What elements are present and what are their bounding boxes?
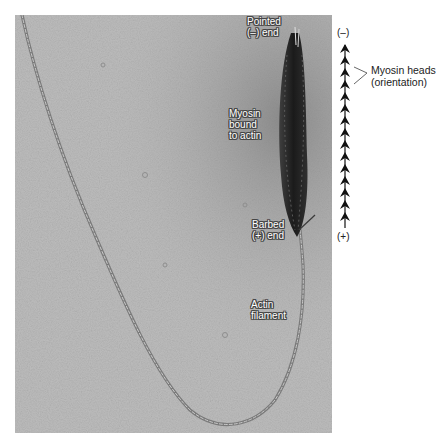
callout-bracket — [354, 67, 367, 84]
label-actin-filament: Actin filament — [251, 299, 286, 321]
polarity-axis: (–) Myosin heads (orientation) (+) — [332, 0, 442, 442]
label-pointed-end: Pointed (–) end — [247, 16, 281, 38]
myosin-heads-callout: Myosin heads (orientation) — [371, 64, 436, 88]
electron-micrograph: Pointed (–) end Myosin bound to actin Ba… — [15, 15, 332, 433]
micrograph-image — [15, 15, 332, 433]
label-myosin-bound: Myosin bound to actin — [229, 108, 261, 141]
plus-end-label: (+) — [337, 231, 350, 243]
label-barbed-end: Barbed (+) end — [252, 219, 284, 241]
